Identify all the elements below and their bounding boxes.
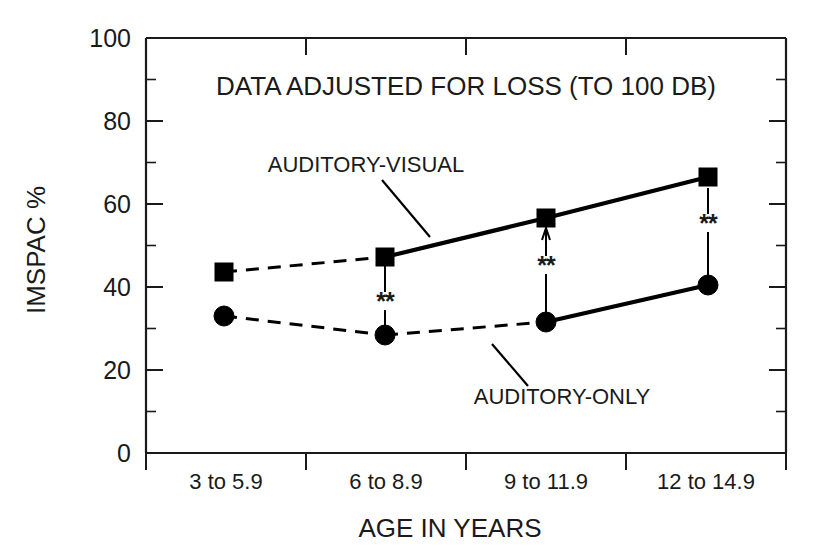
leader-auditory-visual bbox=[382, 180, 430, 237]
chart-title: DATA ADJUSTED FOR LOSS (TO 100 DB) bbox=[216, 71, 716, 101]
chart-canvas: DATA ADJUSTED FOR LOSS (TO 100 DB) 100 8… bbox=[0, 0, 833, 559]
significance-mark-2: ** bbox=[537, 251, 556, 279]
series-label-auditory-visual: AUDITORY-VISUAL bbox=[268, 152, 464, 177]
ao-marker-4 bbox=[698, 275, 718, 295]
av-segment-1-dashed bbox=[224, 257, 385, 272]
ao-segment-1-dashed bbox=[224, 316, 385, 335]
y-tick-label-80: 80 bbox=[103, 107, 131, 135]
x-tick-label-3: 9 to 11.9 bbox=[504, 469, 588, 494]
av-marker-3 bbox=[537, 209, 555, 227]
significance-mark-1: ** bbox=[376, 287, 395, 315]
significance-mark-3: ** bbox=[699, 209, 718, 237]
x-axis-ticks bbox=[146, 38, 786, 470]
ao-segment-2-dashed bbox=[385, 322, 546, 335]
y-tick-label-40: 40 bbox=[103, 273, 131, 301]
y-tick-label-100: 100 bbox=[89, 24, 131, 52]
ao-marker-3 bbox=[536, 312, 556, 332]
leader-lines bbox=[382, 180, 528, 386]
ao-marker-1 bbox=[214, 306, 234, 326]
leader-auditory-only bbox=[492, 344, 528, 386]
x-tick-label-2: 6 to 8.9 bbox=[349, 469, 422, 494]
x-axis-title: AGE IN YEARS bbox=[358, 513, 541, 543]
y-tick-label-60: 60 bbox=[103, 190, 131, 218]
y-tick-label-0: 0 bbox=[117, 439, 131, 467]
y-axis-title: IMSPAC % bbox=[21, 186, 51, 314]
av-marker-4 bbox=[699, 168, 717, 186]
x-tick-label-4: 12 to 14.9 bbox=[657, 469, 755, 494]
ao-segment-3-solid bbox=[546, 285, 708, 322]
y-axis-ticks bbox=[146, 38, 163, 453]
chart-figure: DATA ADJUSTED FOR LOSS (TO 100 DB) 100 8… bbox=[0, 0, 833, 559]
av-marker-1 bbox=[215, 263, 233, 281]
x-tick-label-1: 3 to 5.9 bbox=[189, 469, 262, 494]
av-marker-2 bbox=[376, 248, 394, 266]
y-tick-label-20: 20 bbox=[103, 356, 131, 384]
series-label-auditory-only: AUDITORY-ONLY bbox=[474, 384, 651, 409]
y-axis-ticks-right bbox=[769, 38, 786, 412]
series-auditory-only bbox=[214, 275, 718, 345]
ao-marker-2 bbox=[375, 325, 395, 345]
series-auditory-visual bbox=[215, 168, 717, 281]
